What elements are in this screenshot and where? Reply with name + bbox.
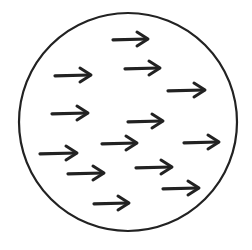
arrow-right-icon — [94, 196, 129, 210]
arrow-right-icon — [52, 106, 88, 120]
arrow-right-icon — [113, 32, 148, 46]
arrow-right-icon — [102, 136, 137, 150]
arrow-right-icon — [125, 61, 160, 75]
arrow-right-icon — [40, 146, 77, 160]
diagram-canvas — [0, 0, 252, 250]
arrow-right-icon — [128, 114, 163, 128]
arrow-right-icon — [136, 160, 172, 174]
arrow-right-icon — [168, 83, 205, 97]
arrows-group — [40, 32, 219, 210]
arrow-right-icon — [163, 181, 199, 195]
arrow-right-icon — [55, 68, 91, 82]
arrow-right-icon — [68, 166, 104, 180]
arrow-right-icon — [184, 135, 219, 149]
